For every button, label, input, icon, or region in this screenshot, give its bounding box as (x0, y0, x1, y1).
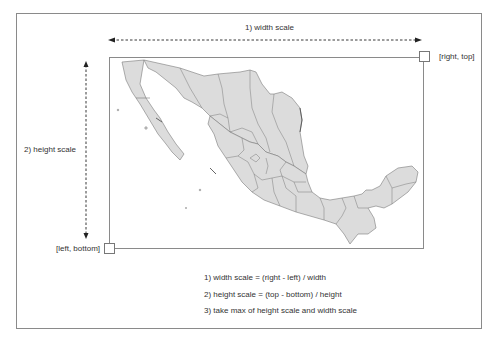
corner-marker-top-right (419, 51, 430, 62)
mexico-map (110, 58, 423, 248)
map-bounding-box (109, 57, 424, 249)
right-top-label: [right, top] (439, 52, 475, 61)
height-arrow (84, 61, 89, 239)
corner-marker-bottom-left (104, 243, 115, 254)
formula-take-max: 3) take max of height scale and width sc… (204, 306, 357, 315)
width-arrow (108, 38, 422, 43)
formula-width-scale: 1) width scale = (right - left) / width (204, 273, 326, 282)
width-scale-label: 1) width scale (245, 23, 294, 32)
height-scale-label: 2) height scale (24, 145, 76, 154)
left-bottom-label: [left, bottom] (56, 244, 100, 253)
formula-height-scale: 2) height scale = (top - bottom) / heigh… (204, 290, 342, 299)
